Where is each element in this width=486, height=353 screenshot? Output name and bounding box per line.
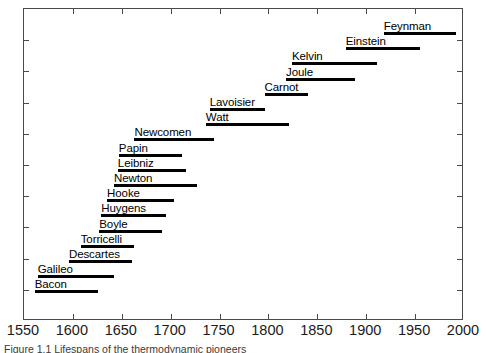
lifespan-bar-label: Bacon (35, 278, 67, 290)
y-axis-tick-left (24, 40, 29, 41)
timeline-row: Watt (206, 111, 289, 126)
timeline-row: Newcomen (134, 126, 213, 141)
timeline-row: Einstein (346, 35, 420, 50)
timeline-row: Descartes (69, 248, 132, 263)
timeline-row: Torricelli (81, 233, 135, 248)
x-axis-tick-top (317, 9, 318, 14)
lifespan-bar-label: Huygens (101, 202, 146, 214)
lifespan-bar (35, 290, 99, 293)
x-axis-tick-top (220, 9, 221, 14)
lifespan-bar-label: Papin (119, 142, 148, 154)
y-axis-tick-right (457, 196, 462, 197)
x-axis-tick-top (171, 9, 172, 14)
x-axis-tick-bottom (268, 314, 269, 319)
y-axis-tick-right (457, 259, 462, 260)
x-axis-tick-label: 1800 (251, 322, 283, 338)
lifespan-bar-label: Hooke (107, 187, 140, 199)
x-axis-tick-top (73, 9, 74, 14)
x-axis-tick-top (415, 9, 416, 14)
lifespan-bar-label: Watt (206, 111, 229, 123)
x-axis-tick-label: 1750 (202, 322, 234, 338)
timeline-row: Kelvin (292, 50, 377, 65)
x-axis-tick-bottom (366, 314, 367, 319)
y-axis-tick-right (457, 227, 462, 228)
y-axis-tick-right (457, 165, 462, 166)
x-axis-tick-label: 1850 (300, 322, 332, 338)
lifespan-bar-label: Kelvin (292, 50, 323, 62)
lifespan-bar-label: Newcomen (134, 126, 191, 138)
x-axis-tick-bottom (220, 314, 221, 319)
timeline-row: Galileo (38, 263, 114, 278)
x-axis-tick-label: 1950 (398, 322, 430, 338)
lifespan-bar-label: Newton (114, 172, 152, 184)
lifespan-bar-label: Carnot (265, 81, 299, 93)
x-axis-tick-bottom (73, 314, 74, 319)
x-axis-tick-top (366, 9, 367, 14)
figure-caption: Figure 1.1 Lifespans of the thermodynami… (4, 343, 482, 353)
x-axis-tick-label: 1900 (349, 322, 381, 338)
y-axis-tick-right (457, 103, 462, 104)
y-axis-tick-left (24, 227, 29, 228)
y-axis-tick-right (457, 71, 462, 72)
lifespan-bar-label: Descartes (69, 248, 120, 260)
lifespan-bar-label: Joule (286, 66, 313, 78)
timeline-row: Bacon (35, 278, 99, 293)
y-axis-tick-right (457, 290, 462, 291)
x-axis-tick-label: 1700 (154, 322, 186, 338)
lifespan-bar (265, 93, 308, 96)
timeline-row: Leibniz (118, 157, 186, 172)
timeline-row: Feynman (384, 20, 456, 35)
lifespan-bar-label: Feynman (384, 20, 431, 32)
y-axis-tick-left (24, 259, 29, 260)
x-axis-tick-label: 1550 (7, 322, 39, 338)
timeline-row: Papin (119, 142, 183, 157)
x-axis-tick-bottom (171, 314, 172, 319)
timeline-row: Hooke (107, 187, 173, 202)
lifespan-bar-label: Torricelli (81, 233, 122, 245)
x-axis-tick-label: 2000 (447, 322, 479, 338)
plot-area: FeynmanEinsteinKelvinJouleCarnotLavoisie… (23, 8, 463, 320)
y-axis-tick-left (24, 196, 29, 197)
y-axis-tick-left (24, 103, 29, 104)
lifespan-bar-label: Leibniz (118, 157, 154, 169)
lifespan-bar (206, 123, 289, 126)
y-axis-tick-right (457, 40, 462, 41)
lifespan-bar-label: Boyle (99, 218, 127, 230)
y-axis-tick-right (457, 134, 462, 135)
x-axis-tick-label: 1600 (56, 322, 88, 338)
x-axis-tick-bottom (317, 314, 318, 319)
x-axis-tick-bottom (122, 314, 123, 319)
timeline-row: Joule (286, 66, 355, 81)
x-axis-tick-top (122, 9, 123, 14)
timeline-row: Huygens (101, 202, 166, 217)
timeline-row: Lavoisier (210, 96, 266, 111)
y-axis-tick-left (24, 134, 29, 135)
x-axis-tick-labels: 1550160016501700175018001850190019502000 (0, 322, 486, 342)
timeline-row: Boyle (99, 218, 162, 233)
lifespan-timeline-figure: FeynmanEinsteinKelvinJouleCarnotLavoisie… (0, 0, 486, 353)
x-axis-tick-top (268, 9, 269, 14)
y-axis-tick-left (24, 71, 29, 72)
lifespan-bar-label: Lavoisier (210, 96, 255, 108)
lifespan-bar-label: Einstein (346, 35, 386, 47)
x-axis-tick-bottom (415, 314, 416, 319)
timeline-row: Newton (114, 172, 197, 187)
y-axis-tick-left (24, 290, 29, 291)
timeline-row: Carnot (265, 81, 308, 96)
x-axis-tick-label: 1650 (105, 322, 137, 338)
y-axis-tick-left (24, 165, 29, 166)
lifespan-bar-label: Galileo (38, 263, 73, 275)
